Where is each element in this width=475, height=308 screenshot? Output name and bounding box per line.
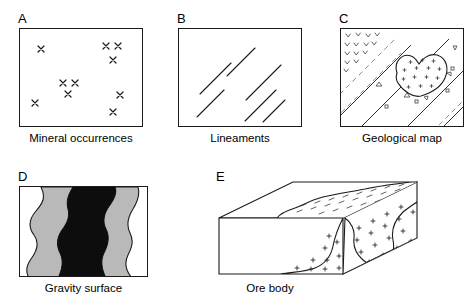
- x-marker: [38, 46, 44, 52]
- map-symbol: [376, 82, 382, 86]
- x-marker: [117, 92, 123, 98]
- intrusion-outline: [396, 55, 447, 97]
- panel-a-caption: Mineral occurrences: [19, 132, 143, 145]
- contact-line: [433, 95, 464, 127]
- panel-b-line-map: [179, 29, 302, 127]
- panel-d-gravity-surface: [20, 187, 148, 277]
- panel-d-letter: D: [18, 170, 27, 183]
- panel-e-block-diagram: [215, 176, 421, 280]
- x-marker: [72, 80, 78, 86]
- map-symbol: [453, 46, 457, 50]
- lineament-segment: [245, 90, 276, 121]
- v-pattern-unit: [341, 29, 387, 75]
- mineral-occurrence-markers: [32, 43, 123, 115]
- lineament-segment: [246, 65, 281, 100]
- panel-c-caption: Geological map: [340, 132, 464, 145]
- lineament-segment: [263, 100, 285, 122]
- panel-b-caption: Lineaments: [178, 132, 302, 145]
- intrusion-body: [396, 55, 447, 97]
- x-marker: [65, 91, 71, 97]
- panel-e-caption: Ore body: [215, 282, 325, 295]
- x-marker: [110, 57, 116, 63]
- figure-exploration-data-layers: A Mineral occurrences B: [0, 0, 475, 308]
- map-symbol: [446, 89, 449, 92]
- panel-a-letter: A: [18, 12, 27, 25]
- lineament-segment: [200, 63, 231, 94]
- panel-c-geological-map: [341, 29, 464, 127]
- panel-d-frame: [19, 186, 148, 277]
- lineament-segment: [227, 48, 255, 76]
- panel-b-letter: B: [177, 12, 186, 25]
- x-marker: [60, 80, 66, 86]
- panel-e-block-wrap: [215, 176, 421, 280]
- panel-a-point-map: [20, 29, 143, 127]
- panel-d-caption: Gravity surface: [19, 282, 148, 295]
- x-marker: [110, 109, 116, 115]
- dashed-line: [439, 97, 464, 125]
- map-symbol: [424, 96, 428, 100]
- map-symbol: [385, 105, 388, 108]
- panel-c-letter: C: [339, 12, 348, 25]
- map-symbol: [451, 67, 454, 70]
- panel-c-frame: [340, 28, 464, 127]
- panel-a-frame: [19, 28, 143, 127]
- panel-b-frame: [178, 28, 302, 127]
- map-symbol: [447, 72, 451, 76]
- map-symbol: [415, 100, 418, 103]
- lineament-segments: [197, 48, 285, 122]
- x-marker: [103, 43, 109, 49]
- x-marker: [115, 43, 121, 49]
- x-marker: [32, 100, 38, 106]
- lineament-segment: [197, 90, 224, 117]
